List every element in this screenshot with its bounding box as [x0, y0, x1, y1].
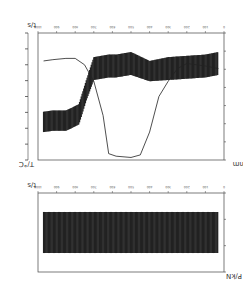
x-tick-label-bottom: 0 — [223, 185, 225, 189]
x-tick-label-top: 700 — [91, 25, 97, 29]
y-axis-label-left: T/°C — [19, 160, 35, 168]
x-tick-label-top: 0 — [223, 25, 225, 29]
x-tick-label-top: 300 — [165, 25, 171, 29]
x-tick-label-bottom: 500 — [128, 185, 134, 189]
x-tick-label-top: 200 — [184, 25, 190, 29]
x-axis-label-bottom: t/s — [27, 181, 36, 189]
x-tick-label-bottom: 300 — [165, 185, 171, 189]
x-tick-label-bottom: 700 — [91, 185, 97, 189]
x-tick-label-bottom: 200 — [184, 185, 190, 189]
x-tick-label-top: 400 — [147, 25, 153, 29]
plot-frame-top — [38, 33, 224, 160]
x-tick-label-top: 100 — [202, 25, 208, 29]
x-tick-label-top: 500 — [128, 25, 134, 29]
y-axis-label-right: D/mm — [232, 160, 243, 168]
chart-svg: 01002003004005006007008009001000t/sT/°CD… — [0, 0, 243, 298]
x-tick-label-top: 900 — [54, 25, 60, 29]
y-axis-label: P/kN — [226, 272, 242, 280]
x-tick-label-bottom: 800 — [72, 185, 78, 189]
x-tick-label-bottom: 900 — [54, 185, 60, 189]
x-tick-label-top: 600 — [109, 25, 115, 29]
x-tick-label-bottom: 600 — [109, 185, 115, 189]
x-tick-label-bottom: 100 — [202, 185, 208, 189]
x-tick-label-top: 800 — [72, 25, 78, 29]
x-axis-label-top: t/s — [27, 21, 36, 29]
chart-container: 01002003004005006007008009001000t/sT/°CD… — [0, 0, 243, 298]
x-tick-label-bottom: 400 — [147, 185, 153, 189]
